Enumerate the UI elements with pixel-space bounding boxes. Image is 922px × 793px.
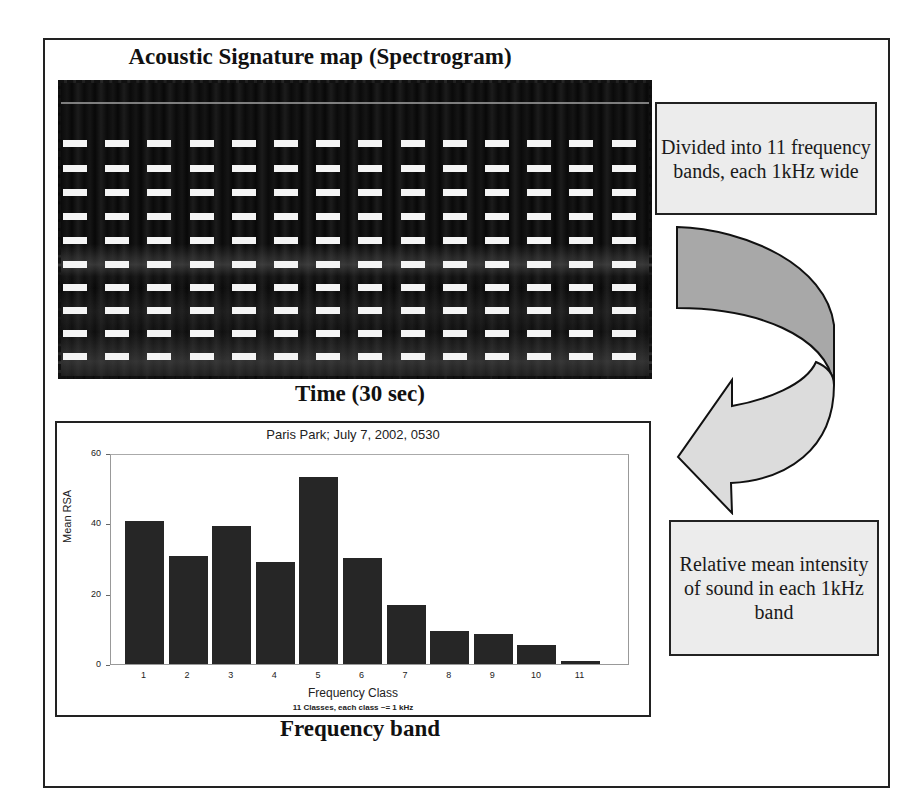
spectrogram-image	[58, 80, 652, 379]
bar-class-3	[212, 526, 251, 664]
bands-callout-text: Divided into 11 frequency bands, each 1k…	[657, 135, 875, 183]
x-tick-label: 2	[168, 670, 207, 680]
band-divider-row	[61, 353, 649, 360]
x-tick-label: 3	[211, 670, 250, 680]
bar-class-6	[343, 558, 382, 664]
x-tick-label: 7	[386, 670, 425, 680]
x-tick-label: 11	[560, 670, 599, 680]
bar-class-11	[561, 661, 600, 664]
chart-title: Paris Park; July 7, 2002, 0530	[57, 427, 649, 442]
band-divider-row	[61, 237, 649, 244]
band-divider-row	[61, 189, 649, 196]
x-tick-label: 10	[516, 670, 555, 680]
band-divider-row	[61, 165, 649, 172]
band-divider-row	[61, 330, 649, 337]
x-tick-label: 6	[342, 670, 381, 680]
band-divider-row	[61, 140, 649, 147]
bar-class-7	[387, 605, 426, 664]
bar-class-1	[125, 521, 164, 664]
x-tick-label: 5	[298, 670, 337, 680]
y-tick-label: 20	[73, 589, 101, 599]
bar-class-9	[474, 634, 513, 664]
band-divider-row	[61, 307, 649, 314]
spectrogram-top-line	[61, 102, 649, 104]
x-axis-label: Frequency Class	[57, 686, 649, 700]
bar-class-2	[169, 556, 208, 664]
y-tick-label: 40	[73, 518, 101, 528]
band-divider-row	[61, 284, 649, 291]
y-tick-label: 0	[73, 659, 101, 669]
band-divider-row	[61, 261, 649, 268]
x-tick-label: 4	[255, 670, 294, 680]
bands-callout: Divided into 11 frequency bands, each 1k…	[655, 102, 877, 215]
curved-arrow-icon	[676, 225, 846, 515]
spectrogram-title: Acoustic Signature map (Spectrogram)	[60, 44, 580, 70]
y-tick-mark	[106, 665, 110, 666]
band-divider-row	[61, 213, 649, 220]
x-tick-label: 8	[429, 670, 468, 680]
bar-class-4	[256, 562, 295, 664]
frequency-band-label: Frequency band	[160, 716, 560, 742]
y-axis-label: Mean RSA	[61, 490, 73, 543]
intensity-callout-text: Relative mean intensity of sound in each…	[671, 552, 877, 624]
x-axis-subtitle: 11 Classes, each class ~= 1 kHz	[57, 703, 649, 712]
bar-class-8	[430, 631, 469, 664]
time-axis-label: Time (30 sec)	[230, 381, 490, 407]
y-tick-label: 60	[73, 448, 101, 458]
intensity-callout: Relative mean intensity of sound in each…	[669, 520, 879, 656]
bar-chart: Paris Park; July 7, 2002, 0530 Mean RSA …	[55, 421, 651, 717]
bar-class-10	[517, 645, 556, 664]
plot-area	[110, 454, 629, 665]
bar-class-5	[299, 477, 338, 664]
x-tick-label: 9	[473, 670, 512, 680]
x-tick-label: 1	[124, 670, 163, 680]
